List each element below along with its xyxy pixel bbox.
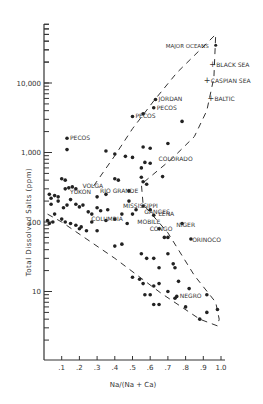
data-point	[166, 290, 170, 294]
data-point	[65, 203, 69, 207]
point-label: CASPIAN SEA	[211, 77, 252, 84]
gibbs-diagram-chart: .1.2.3.4.5.6.7.8.91.0101001,00010,000 MA…	[0, 0, 263, 404]
x-tick-label: .7	[165, 364, 172, 372]
point-label: JORDAN	[158, 95, 183, 103]
data-point	[117, 178, 121, 182]
data-point	[180, 120, 184, 124]
data-point	[125, 222, 129, 226]
data-point	[148, 161, 152, 165]
data-point	[69, 222, 73, 226]
data-point	[205, 311, 209, 315]
data-point	[166, 236, 170, 240]
data-point	[152, 257, 156, 261]
data-point	[56, 199, 60, 203]
point-label: CONGO	[150, 225, 173, 232]
data-point	[74, 223, 78, 227]
data-point	[131, 276, 135, 280]
data-point	[56, 195, 60, 199]
data-point	[145, 182, 149, 186]
data-point	[141, 145, 145, 149]
envelope-dashed-boundary	[48, 34, 220, 326]
data-point	[53, 212, 57, 216]
data-point	[65, 148, 69, 152]
data-point	[141, 282, 145, 286]
data-point	[53, 194, 57, 198]
data-point	[187, 287, 191, 291]
data-point	[124, 155, 128, 159]
data-point	[113, 244, 117, 248]
data-point	[62, 206, 66, 210]
data-point	[173, 266, 177, 270]
point-label: COLUMBIA	[91, 215, 123, 222]
data-point	[138, 277, 142, 281]
data-point	[145, 257, 149, 261]
point-labels: MAJOR OCEANS+BLACK SEA+CASPIAN SEA+BALTI…	[69, 43, 251, 299]
data-point	[106, 208, 110, 212]
data-point	[46, 219, 50, 223]
data-point	[131, 212, 135, 216]
data-point	[86, 210, 90, 214]
point-label: PECOS	[136, 112, 156, 119]
data-point	[113, 152, 117, 156]
y-tick-label: 1,000	[21, 149, 41, 157]
data-point	[166, 142, 170, 146]
data-point	[157, 282, 161, 286]
point-label: MOBILE	[137, 218, 160, 225]
data-point	[95, 206, 99, 210]
x-tick-label: .9	[200, 364, 207, 372]
point-label: MAJOR OCEANS	[166, 43, 210, 50]
data-point	[81, 203, 85, 207]
x-tick-label: 1.0	[215, 364, 226, 372]
data-point	[214, 44, 217, 47]
point-label: PECOS	[70, 134, 90, 141]
point-label: NIGER	[176, 221, 195, 228]
data-point	[60, 177, 64, 181]
plus-marker: +	[204, 76, 211, 85]
y-tick-label: 10,000	[17, 80, 42, 88]
data-point	[216, 308, 220, 312]
data-point	[51, 220, 55, 224]
data-point	[48, 222, 52, 226]
plus-marker: +	[209, 60, 216, 69]
data-point	[171, 262, 175, 266]
x-tick-label: .1	[58, 364, 65, 372]
data-point	[157, 266, 161, 270]
data-point	[60, 217, 64, 221]
data-point	[95, 229, 99, 233]
data-point	[143, 161, 147, 165]
data-point	[113, 177, 117, 181]
data-point	[152, 303, 156, 307]
data-point	[161, 175, 165, 179]
axes: .1.2.3.4.5.6.7.8.91.0101001,00010,000	[17, 24, 227, 372]
point-label: COLORADO	[159, 155, 193, 162]
point-label: BALTIC	[214, 95, 234, 102]
point-label: ORINOCO	[192, 236, 221, 243]
data-point	[63, 187, 67, 191]
data-points	[46, 98, 220, 321]
point-label: NEGRO	[180, 292, 202, 299]
data-point	[48, 193, 52, 197]
data-point	[99, 209, 103, 213]
data-point	[163, 236, 167, 240]
data-point	[198, 317, 202, 321]
data-point	[184, 305, 188, 309]
data-point	[63, 220, 67, 224]
data-point	[148, 146, 152, 150]
x-tick-label: .3	[94, 364, 101, 372]
plus-marker: +	[207, 94, 214, 103]
data-point	[49, 196, 53, 200]
x-tick-label: .6	[147, 364, 154, 372]
point-label: YUKON	[69, 188, 91, 195]
x-tick-label: .2	[76, 364, 83, 372]
y-tick-label: 10	[32, 288, 41, 296]
data-point	[104, 149, 108, 153]
chart-svg: .1.2.3.4.5.6.7.8.91.0101001,00010,000 MA…	[0, 0, 263, 404]
data-point	[131, 156, 135, 160]
data-point	[140, 166, 144, 170]
data-point	[152, 284, 156, 288]
data-point	[65, 137, 69, 141]
data-point	[154, 98, 158, 102]
data-point	[175, 295, 179, 299]
data-point	[63, 178, 67, 182]
data-point	[141, 180, 145, 184]
